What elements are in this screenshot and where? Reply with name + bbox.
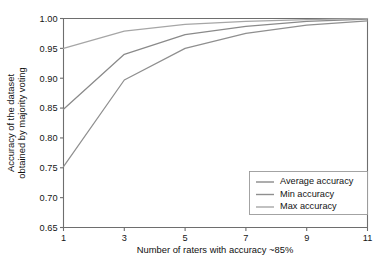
y-tick-label: 0.90 bbox=[40, 74, 58, 84]
legend-label: Min accuracy bbox=[280, 189, 335, 199]
legend-label: Max accuracy bbox=[280, 201, 337, 211]
y-tick-label: 0.75 bbox=[40, 163, 58, 173]
chart-figure: 0.650.700.750.800.850.900.951.00 1357911… bbox=[0, 0, 389, 267]
chart-legend: Average accuracyMin accuracyMax accuracy bbox=[250, 172, 368, 215]
series-line-min-accuracy bbox=[64, 21, 368, 167]
y-tick-label: 1.00 bbox=[40, 14, 58, 24]
y-tick-label: 0.65 bbox=[40, 223, 58, 233]
y-tick-label: 0.80 bbox=[40, 133, 58, 143]
series-line-max-accuracy bbox=[64, 19, 368, 49]
x-tick-label: 9 bbox=[304, 233, 309, 243]
series-line-average-accuracy bbox=[64, 19, 368, 109]
y-axis-title-line2: obtained by majority voting bbox=[16, 67, 27, 179]
x-tick-label: 3 bbox=[122, 233, 127, 243]
x-tick-label: 7 bbox=[243, 233, 248, 243]
y-axis-title: Accuracy of the dataset obtained by majo… bbox=[5, 67, 27, 179]
x-tick-label: 11 bbox=[363, 233, 373, 243]
y-tick-label: 0.85 bbox=[40, 103, 58, 113]
legend-label: Average accuracy bbox=[280, 176, 354, 186]
x-tick-label: 5 bbox=[183, 233, 188, 243]
y-axis-tick-labels: 0.650.700.750.800.850.900.951.00 bbox=[40, 14, 58, 233]
y-tick-label: 0.70 bbox=[40, 193, 58, 203]
y-axis-title-line1: Accuracy of the dataset bbox=[5, 74, 16, 172]
series-lines bbox=[64, 19, 368, 167]
line-chart: 0.650.700.750.800.850.900.951.00 1357911… bbox=[0, 0, 389, 267]
x-tick-label: 1 bbox=[61, 233, 66, 243]
x-axis-tick-labels: 1357911 bbox=[61, 233, 372, 243]
x-axis-title: Number of raters with accuracy ~85% bbox=[137, 244, 294, 255]
y-tick-label: 0.95 bbox=[40, 44, 58, 54]
